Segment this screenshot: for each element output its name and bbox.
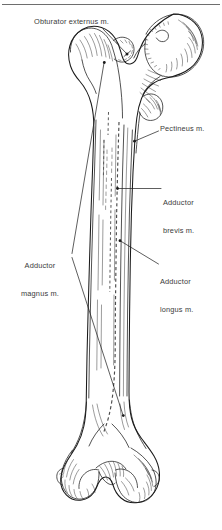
label-adductor-magnus-line2: magnus m. bbox=[9, 289, 71, 298]
leader-dot-pectineus bbox=[133, 140, 136, 143]
label-adductor-longus-line2: longus m. bbox=[160, 305, 193, 314]
label-adductor-longus: Adductor longus m. bbox=[160, 259, 193, 333]
anatomical-figure: .out { fill:#ffffff; stroke:#1a1a1a; str… bbox=[0, 0, 222, 530]
leader-pectineus bbox=[135, 131, 159, 141]
label-adductor-magnus-line1: Adductor bbox=[9, 261, 71, 270]
leader-dot-adductor-magnus-lower bbox=[122, 414, 125, 417]
lesser-trochanter-hatching bbox=[142, 98, 161, 118]
label-adductor-magnus: Adductor magnus m. bbox=[9, 243, 71, 317]
label-adductor-longus-line1: Adductor bbox=[160, 277, 193, 286]
label-adductor-brevis: Adductor brevis m. bbox=[163, 180, 194, 254]
label-adductor-brevis-line2: brevis m. bbox=[163, 226, 194, 235]
leader-dot-adductor-magnus-upper bbox=[103, 61, 106, 64]
leader-dot-adductor-brevis bbox=[116, 187, 119, 190]
label-pectineus: Pectineus m. bbox=[160, 124, 205, 133]
label-adductor-brevis-line1: Adductor bbox=[163, 198, 194, 207]
label-obturator-externus: Obturator externus m. bbox=[34, 17, 109, 26]
leader-dot-adductor-longus bbox=[119, 239, 122, 242]
